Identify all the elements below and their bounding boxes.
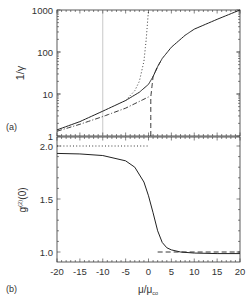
curve-b-solid [57,153,240,253]
curve-a-dashed [151,59,162,136]
y-axis-label-b: g(2)(0) [17,187,28,212]
yticks-a: 1000 100 10 1 [32,5,53,142]
y-axis-label-a: 1/γ [14,65,26,80]
ytick-2.0: 2.0 [40,141,53,152]
figure: 1000 100 10 1 1/γ (a) 2.0 1.5 1.0 g(2)(0… [0,0,252,306]
xtick-10: 10 [189,266,200,277]
xtick--5: -5 [121,266,129,277]
yticks-b: 2.0 1.5 1.0 [40,141,53,258]
ytick-1.5: 1.5 [40,194,53,205]
x-axis-label: μ/μco [138,284,158,296]
curve-a-solid [57,10,240,130]
ytick-1000: 1000 [32,5,53,16]
panel-label-a: (a) [6,122,17,132]
xtick--20: -20 [50,266,64,277]
xtick--15: -15 [73,266,87,277]
ytick-10: 10 [42,89,53,100]
ytick-100: 100 [37,47,53,58]
panel-b: 2.0 1.5 1.0 g(2)(0) -20-15-10-505101520 … [6,137,245,296]
xtick-0: 0 [146,266,151,277]
xtick-5: 5 [169,266,174,277]
svg-text:g(2)(0): g(2)(0) [17,187,28,212]
xticks: -20-15-10-505101520 [50,266,245,277]
xtick-20: 20 [235,266,246,277]
svg-text:μ/μco: μ/μco [138,284,158,296]
xtick-15: 15 [212,266,223,277]
ytick-1.0: 1.0 [40,247,53,258]
xtick--10: -10 [96,266,110,277]
panel-label-b: (b) [6,284,17,294]
panel-a: 1000 100 10 1 1/γ (a) [6,5,240,142]
